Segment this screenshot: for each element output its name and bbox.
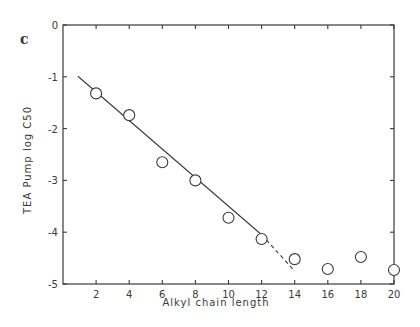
data-points — [91, 88, 400, 276]
plot-frame — [63, 25, 394, 284]
data-point-circle — [124, 110, 135, 121]
data-point-circle — [190, 175, 201, 186]
x-axis-title: Alkyl chain length — [162, 297, 269, 308]
y-axis: 0-1-2-3-4-5 — [48, 20, 394, 290]
data-point-circle — [289, 254, 300, 265]
x-tick-label: 18 — [355, 289, 368, 300]
data-point-circle — [223, 212, 234, 223]
x-tick-label: 20 — [388, 289, 401, 300]
y-tick-label: -3 — [48, 175, 58, 186]
chart: c 0-1-2-3-4-5 2468101214161820 Alkyl cha… — [0, 0, 420, 327]
plot-border — [63, 25, 394, 284]
panel-label: c — [20, 31, 29, 47]
x-tick-label: 4 — [126, 289, 132, 300]
data-point-circle — [256, 233, 267, 244]
y-tick-label: -1 — [48, 72, 58, 83]
data-point-circle — [91, 88, 102, 99]
x-tick-label: 2 — [93, 289, 99, 300]
data-point-circle — [389, 265, 400, 276]
fit-line-solid — [78, 76, 262, 235]
data-point-circle — [157, 157, 168, 168]
data-point-circle — [322, 263, 333, 274]
x-tick-label: 14 — [288, 289, 301, 300]
y-tick-label: -5 — [48, 279, 58, 290]
y-tick-label: 0 — [52, 20, 58, 31]
x-tick-label: 16 — [321, 289, 334, 300]
y-tick-label: -2 — [48, 124, 58, 135]
data-point-circle — [355, 252, 366, 263]
x-axis: 2468101214161820 — [93, 25, 400, 300]
y-axis-title: TEA Pump log C50 — [22, 106, 33, 215]
y-tick-label: -4 — [48, 227, 58, 238]
